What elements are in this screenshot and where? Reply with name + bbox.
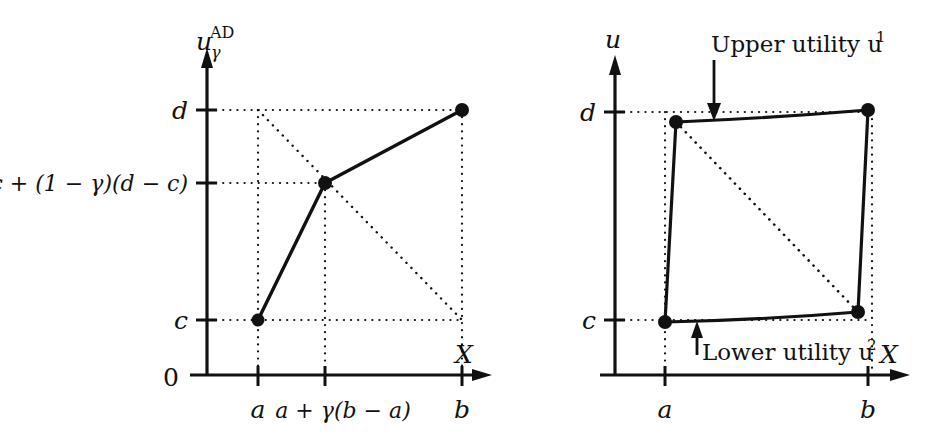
lower-utility-annotation-label: Lower utility u 2 — [702, 336, 877, 365]
right-x-axis-label: X — [878, 340, 899, 369]
right-y-tick-label-d: d — [580, 98, 596, 127]
right-x-tick-label-b: b — [860, 395, 876, 424]
right-panel: Upper utility u 1 Lower utility u 2 u X … — [580, 25, 910, 424]
right-x-axis-arrowhead — [890, 369, 910, 381]
left-origin-label: 0 — [163, 363, 179, 392]
left-y-tick-label-mid: c + (1 − γ)(d − c) — [0, 171, 188, 196]
lower-utility-annotation-text: Lower utility u — [702, 339, 873, 365]
left-y-axis-label-superscript: AD — [209, 23, 234, 42]
upper-utility-annotation-superscript: 1 — [876, 28, 886, 46]
right-data-point-lower-b — [851, 305, 865, 319]
right-upper-utility-curve — [676, 110, 868, 122]
left-panel-guides — [209, 110, 462, 374]
left-y-axis — [201, 48, 213, 375]
figure-root: u γ AD 0 X d c + (1 − γ)(d − c) c a a + … — [0, 0, 939, 442]
left-panel: u γ AD 0 X d c + (1 − γ)(d − c) c a a + … — [0, 23, 492, 424]
upper-utility-annotation-text: Upper utility u — [711, 31, 882, 57]
left-y-tick-label-d: d — [172, 96, 188, 125]
right-left-edge — [665, 122, 676, 322]
right-y-axis — [609, 55, 621, 375]
left-x-tick-label-a: a — [251, 395, 266, 424]
left-y-axis-label-subscript: γ — [211, 43, 221, 62]
left-reference-diagonal — [258, 110, 462, 320]
right-data-point-upper-b — [861, 103, 875, 117]
lower-utility-arrowhead — [691, 321, 703, 338]
left-x-tick-label-mid: a + γ(b − a) — [275, 398, 410, 423]
left-x-axis — [190, 369, 492, 381]
left-y-axis-label: u γ AD — [196, 23, 234, 62]
right-y-axis-arrowhead — [609, 55, 621, 75]
right-data-point-upper-a — [669, 115, 683, 129]
right-panel-guides — [617, 112, 872, 374]
right-data-point-lower-a — [658, 315, 672, 329]
right-x-axis — [600, 369, 910, 381]
lower-utility-annotation-superscript: 2 — [867, 336, 877, 354]
right-x-tick-label-a: a — [658, 395, 673, 424]
left-x-axis-label: X — [453, 340, 474, 369]
left-data-point-a-c — [252, 314, 265, 327]
right-y-axis-label: u — [605, 25, 621, 54]
left-data-point-b-d — [455, 103, 469, 117]
right-reference-diagonal — [676, 122, 858, 312]
upper-utility-annotation-label: Upper utility u 1 — [711, 28, 886, 57]
left-x-axis-arrowhead — [472, 369, 492, 381]
left-x-tick-label-b: b — [454, 395, 470, 424]
left-y-tick-label-c: c — [174, 306, 188, 335]
right-y-tick-label-c: c — [582, 306, 596, 335]
left-data-point-kink — [318, 176, 332, 190]
right-right-edge — [858, 110, 868, 312]
figure-svg: u γ AD 0 X d c + (1 − γ)(d − c) c a a + … — [0, 0, 939, 442]
